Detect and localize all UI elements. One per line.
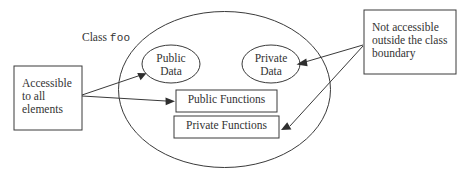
private-data-label: Private Data (243, 52, 299, 78)
connector-left-to-public-functions (82, 96, 166, 101)
arrowhead-public-functions (166, 97, 176, 105)
connector-right-to-private-functions (290, 46, 363, 126)
public-functions-label: Public Functions (180, 93, 273, 106)
left-annotation-label: Accessible to all elements (22, 77, 84, 116)
connector-left-to-public-data (82, 74, 144, 95)
arrowhead-private-functions (281, 122, 291, 130)
class-encapsulation-diagram: Class foo Accessible to all elements Not… (0, 0, 469, 176)
private-functions-label: Private Functions (178, 119, 275, 132)
class-boundary-label: Class foo (82, 31, 131, 45)
class-name: foo (110, 32, 131, 44)
right-annotation-label: Not accessible outside the class boundar… (372, 21, 454, 60)
public-data-label: Public Data (144, 52, 198, 78)
class-keyword: Class (82, 31, 110, 43)
